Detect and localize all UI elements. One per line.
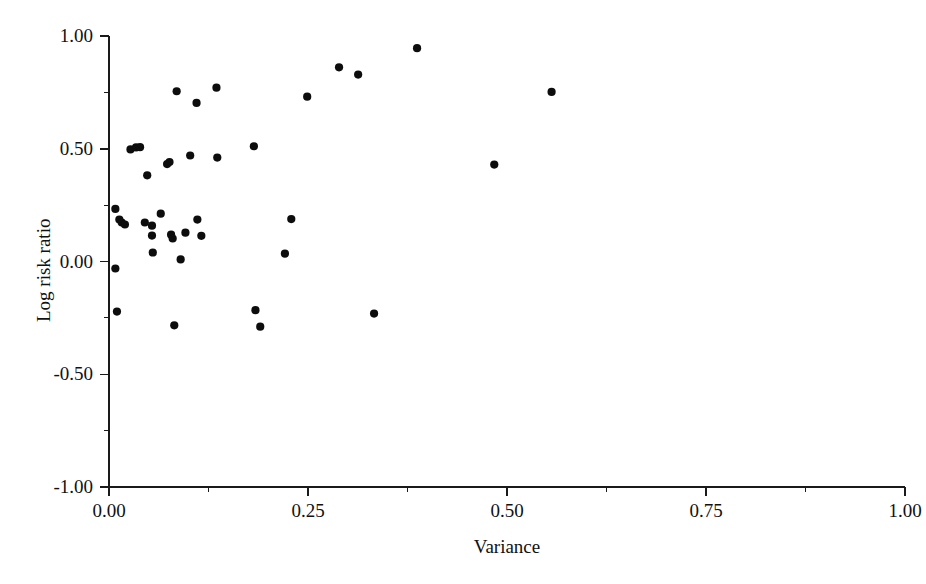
data-point <box>111 264 119 272</box>
y-axis-label: Log risk ratio <box>34 218 53 321</box>
data-point <box>136 143 144 151</box>
data-point <box>256 323 264 331</box>
y-axis-ticks <box>100 36 109 487</box>
data-point <box>173 87 181 95</box>
data-point <box>143 171 151 179</box>
data-point <box>303 93 311 101</box>
data-point <box>141 218 149 226</box>
y-tick-label: -1.00 <box>0 477 93 496</box>
x-axis-ticks <box>109 487 905 496</box>
data-point <box>148 231 156 239</box>
data-point <box>148 222 156 230</box>
data-point <box>186 151 194 159</box>
x-tick-label: 0.50 <box>467 501 547 520</box>
x-tick-label: 0.25 <box>268 501 348 520</box>
data-point <box>490 160 498 168</box>
data-point <box>149 248 157 256</box>
data-point <box>281 250 289 258</box>
y-tick-label: 0.50 <box>0 139 93 158</box>
data-point <box>197 232 205 240</box>
data-point <box>370 309 378 317</box>
data-point-series <box>111 44 555 331</box>
data-point <box>287 215 295 223</box>
data-point <box>251 306 259 314</box>
x-axis-label: Variance <box>447 537 567 556</box>
x-tick-label: 0.00 <box>69 501 149 520</box>
axes-group <box>109 36 905 487</box>
data-point <box>181 229 189 237</box>
data-point <box>165 158 173 166</box>
data-point <box>213 153 221 161</box>
y-tick-label: -0.50 <box>0 364 93 383</box>
data-point <box>177 255 185 263</box>
data-point <box>157 210 165 218</box>
data-point <box>111 205 119 213</box>
data-point <box>547 88 555 96</box>
data-point <box>169 234 177 242</box>
x-tick-label: 0.75 <box>666 501 746 520</box>
data-point <box>354 70 362 78</box>
data-point <box>121 220 129 228</box>
x-tick-label: 1.00 <box>865 501 926 520</box>
data-point <box>113 307 121 315</box>
data-point <box>170 321 178 329</box>
y-tick-label: 1.00 <box>0 26 93 45</box>
data-point <box>413 44 421 52</box>
data-point <box>212 84 220 92</box>
data-point <box>192 99 200 107</box>
data-point <box>193 215 201 223</box>
data-point <box>250 142 258 150</box>
data-point <box>335 63 343 71</box>
